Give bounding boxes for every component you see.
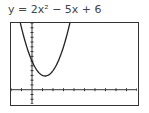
graph-plot (11, 23, 137, 104)
equation-label: y = 2x² − 5x + 6 (8, 3, 102, 16)
parabola-curve (11, 23, 137, 76)
graphing-calculator-screen (10, 22, 139, 106)
